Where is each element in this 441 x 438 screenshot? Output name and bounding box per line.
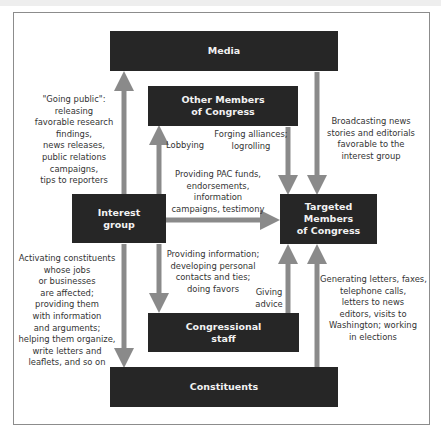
- label-line: Providing PAC funds,: [168, 169, 268, 181]
- label-line: helping them organize,: [15, 334, 119, 346]
- node-targeted-line2: of Congress: [297, 225, 360, 237]
- label-line: write letters and: [15, 346, 119, 358]
- node-staff-line1: Congressional: [186, 321, 262, 333]
- label-lobbying: Lobbying: [166, 140, 204, 152]
- label-line: doing favors: [165, 284, 261, 296]
- label-line: leaflets, and so on: [15, 357, 119, 369]
- label-line: news releases,: [30, 140, 118, 152]
- node-interest-group: Interest group: [72, 194, 166, 243]
- label-line: tips to reporters: [30, 175, 118, 187]
- node-other-members: Other Members of Congress: [148, 86, 298, 126]
- label-line: Activating constituents: [15, 253, 119, 265]
- node-staff-line2: staff: [211, 333, 235, 345]
- node-media-label: Media: [208, 45, 240, 57]
- label-line: with information: [15, 311, 119, 323]
- label-line: telephone calls,: [320, 286, 426, 298]
- label-line: endorsements,: [168, 181, 268, 193]
- label-line: Lobbying: [166, 140, 204, 152]
- label-line: campaigns, testimony: [168, 204, 268, 216]
- label-line: findings,: [30, 129, 118, 141]
- label-forging-alliances: Forging alliances; logrolling: [208, 129, 294, 152]
- label-line: Forging alliances;: [208, 129, 294, 141]
- node-media: Media: [110, 31, 338, 71]
- label-line: favorable research: [30, 117, 118, 129]
- node-interest-group-line1: Interest: [98, 207, 141, 219]
- label-line: or businesses: [15, 276, 119, 288]
- label-line: whose jobs: [15, 265, 119, 277]
- label-line: releasing: [30, 106, 118, 118]
- label-line: letters to news: [320, 297, 426, 309]
- node-other-members-line2: of Congress: [191, 106, 254, 118]
- label-line: in elections: [320, 332, 426, 344]
- label-line: providing them: [15, 299, 119, 311]
- label-line: advice: [253, 299, 285, 311]
- node-interest-group-line2: group: [103, 219, 135, 231]
- label-line: contacts and ties;: [165, 272, 261, 284]
- label-line: interest group: [323, 151, 419, 163]
- label-line: logrolling: [208, 141, 294, 153]
- label-line: Providing information;: [165, 249, 261, 261]
- label-line: public relations: [30, 152, 118, 164]
- label-line: are affected;: [15, 288, 119, 300]
- label-line: Giving: [253, 287, 285, 299]
- node-constituents-label: Constituents: [190, 381, 258, 393]
- label-line: developing personal: [165, 261, 261, 273]
- label-line: campaigns,: [30, 164, 118, 176]
- label-going-public: "Going public": releasing favorable rese…: [30, 94, 118, 187]
- label-line: Washington; working: [320, 320, 426, 332]
- label-line: Broadcasting news: [323, 116, 419, 128]
- node-other-members-line1: Other Members: [181, 94, 264, 106]
- label-line: information: [168, 192, 268, 204]
- label-generating-letters: Generating letters, faxes, telephone cal…: [320, 274, 426, 344]
- label-line: and arguments;: [15, 323, 119, 335]
- node-targeted-line1: Targeted Members: [280, 201, 377, 225]
- label-broadcasting: Broadcasting news stories and editorials…: [323, 116, 419, 162]
- label-providing-information: Providing information; developing person…: [165, 249, 261, 295]
- label-line: "Going public":: [30, 94, 118, 106]
- label-giving-advice: Giving advice: [253, 287, 285, 310]
- label-line: stories and editorials: [323, 128, 419, 140]
- node-congressional-staff: Congressional staff: [148, 313, 299, 352]
- label-activating-constituents: Activating constituents whose jobs or bu…: [15, 253, 119, 369]
- node-constituents: Constituents: [110, 367, 338, 407]
- label-line: favorable to the: [323, 139, 419, 151]
- label-pac-funds: Providing PAC funds, endorsements, infor…: [168, 169, 268, 215]
- label-line: editors, visits to: [320, 309, 426, 321]
- node-targeted-members: Targeted Members of Congress: [280, 194, 377, 244]
- label-line: Generating letters, faxes,: [320, 274, 426, 286]
